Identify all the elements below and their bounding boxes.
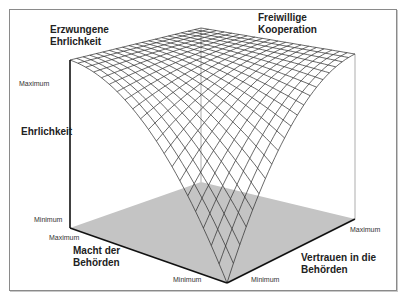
label-line: Erzwungene — [50, 24, 109, 36]
y-axis-label: Vertrauen in die Behörden — [301, 252, 376, 276]
label-line: Kooperation — [258, 24, 317, 36]
z-tick-minimum: Minimum — [34, 216, 62, 223]
label-line: Macht der — [73, 245, 120, 257]
z-tick-maximum: Maximum — [19, 80, 49, 87]
x-tick-maximum: Maximum — [49, 234, 79, 241]
x-tick-minimum: Minimum — [173, 276, 201, 283]
label-freiwillige-kooperation: Freiwillige Kooperation — [258, 12, 317, 36]
label-line: Behörden — [73, 257, 120, 269]
label-erzwungene-ehrlichkeit: Erzwungene Ehrlichkeit — [50, 24, 109, 48]
x-axis-label: Macht der Behörden — [73, 245, 120, 269]
y-tick-minimum: Minimum — [251, 276, 279, 283]
label-line: Vertrauen in die — [301, 252, 376, 264]
mesh-line — [116, 49, 272, 164]
label-line: Behörden — [301, 264, 376, 276]
label-line: Ehrlichkeit — [50, 36, 109, 48]
mesh-line — [109, 50, 265, 178]
mesh-line — [96, 54, 252, 210]
label-line: Freiwillige — [258, 12, 317, 24]
mesh-line — [172, 45, 301, 167]
z-axis-label: Ehrlichkeit — [21, 126, 72, 138]
y-tick-maximum: Maximum — [350, 226, 380, 233]
